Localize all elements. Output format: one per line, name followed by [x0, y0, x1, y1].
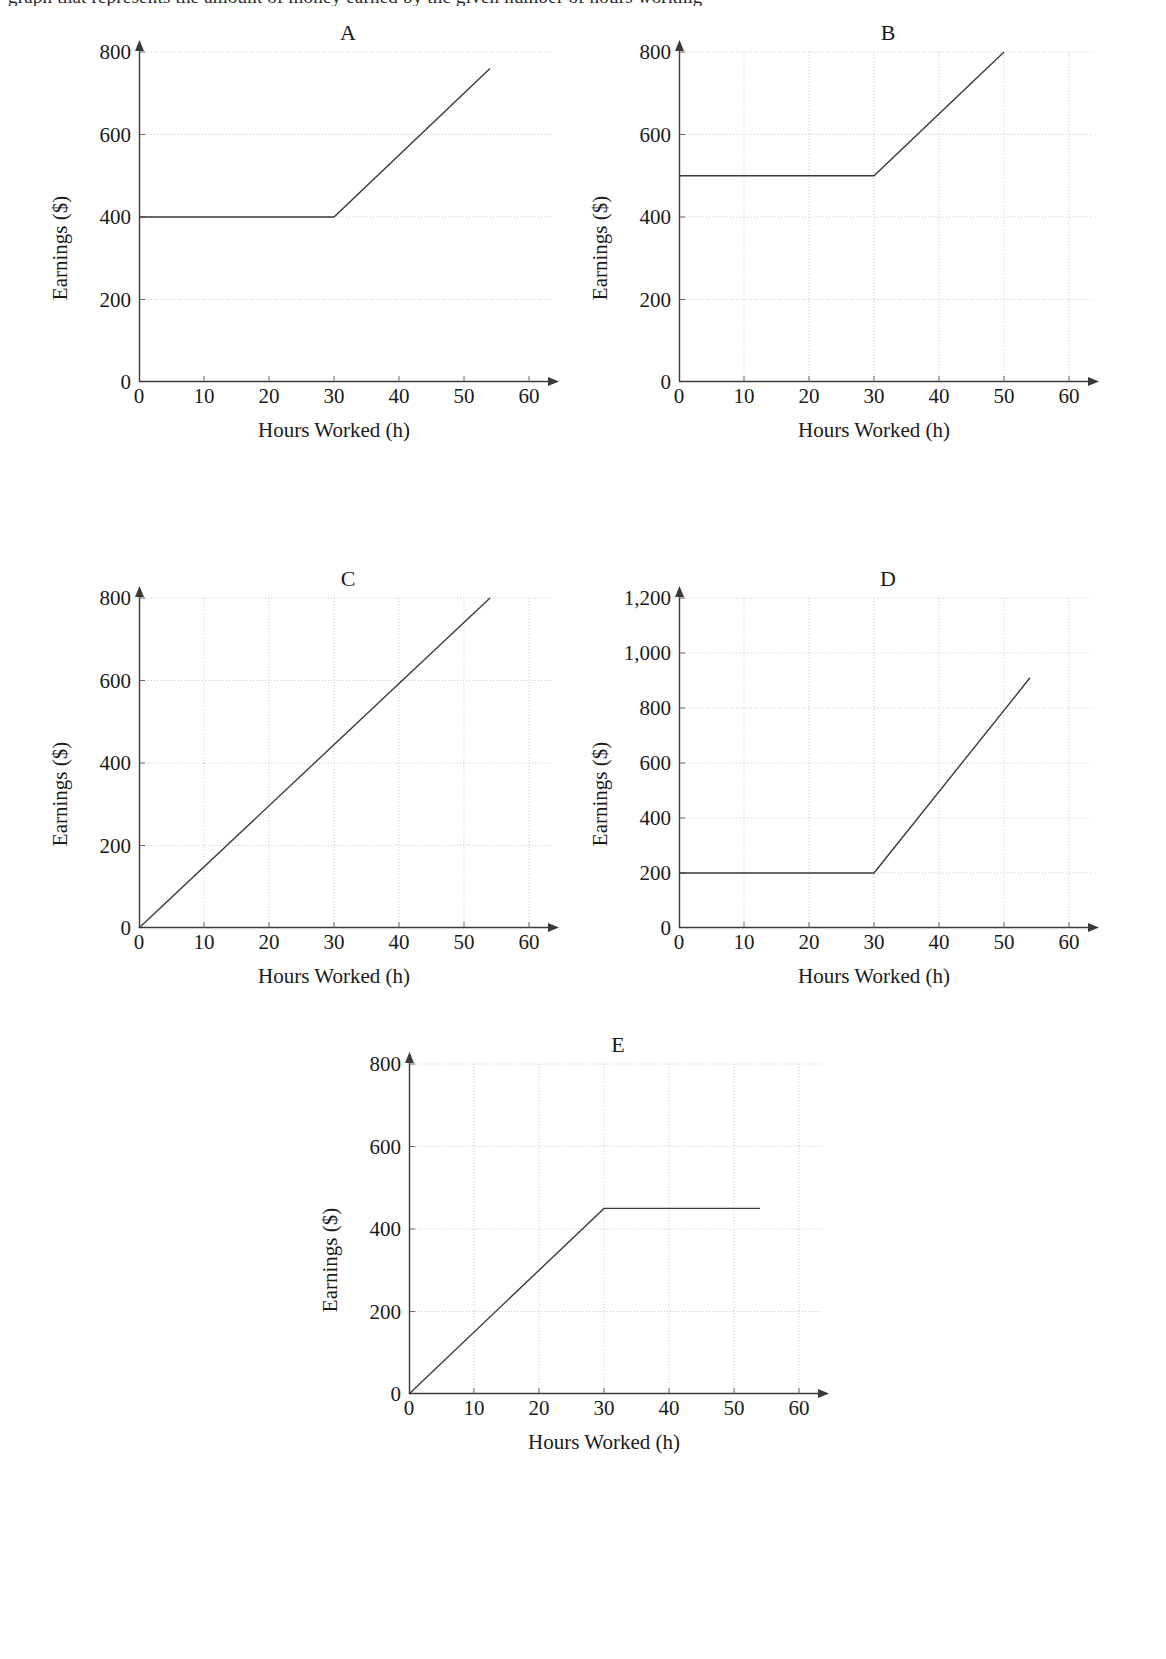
- x-tick-label: 60: [1059, 930, 1080, 955]
- x-tick-label: 0: [404, 1396, 415, 1421]
- x-tick-label: 20: [799, 384, 820, 409]
- x-tick-label: 50: [994, 384, 1015, 409]
- x-axis-label-d: Hours Worked (h): [679, 964, 1069, 989]
- gridlines-e: [409, 1064, 821, 1394]
- x-tick-label: 40: [659, 1396, 680, 1421]
- chart-cell-e: EEarnings ($)02004006008000102030405060H…: [313, 1034, 853, 1455]
- y-tick-label: 0: [121, 370, 132, 395]
- y-tick-label: 200: [370, 1299, 402, 1324]
- data-line-a: [139, 69, 490, 218]
- axes-a: [135, 40, 559, 386]
- x-tick-label: 40: [389, 384, 410, 409]
- chart-cell-d: DEarnings ($)02004006008001,0001,2000102…: [583, 568, 1123, 989]
- x-tick-label: 30: [864, 384, 885, 409]
- x-tick-label: 40: [389, 930, 410, 955]
- x-tick-labels-a: 0102030405060: [139, 382, 563, 412]
- cut-off-header-text-label: graph that represents the amount of mone…: [0, 0, 1166, 6]
- x-tick-label: 50: [994, 930, 1015, 955]
- x-tick-label: 40: [929, 930, 950, 955]
- y-axis-label-a: Earnings ($): [48, 195, 73, 299]
- y-tick-label: 600: [640, 751, 672, 776]
- y-tick-label: 1,000: [624, 641, 671, 666]
- x-axis-label-b: Hours Worked (h): [679, 418, 1069, 443]
- y-tick-label: 200: [100, 833, 132, 858]
- plot-column-e: 0102030405060Hours Worked (h): [409, 1064, 833, 1455]
- x-tick-label: 10: [734, 930, 755, 955]
- y-axis-label-wrap-b: Earnings ($): [583, 52, 617, 443]
- cut-off-header-text: graph that represents the amount of mone…: [0, 0, 1166, 6]
- plot-area-e: [409, 1064, 799, 1394]
- x-tick-label: 30: [864, 930, 885, 955]
- y-tick-label: 400: [370, 1217, 402, 1242]
- y-axis-label-wrap-a: Earnings ($): [43, 52, 77, 443]
- x-tick-label: 30: [324, 384, 345, 409]
- x-tick-label: 60: [1059, 384, 1080, 409]
- y-tick-label: 800: [640, 696, 672, 721]
- y-tick-label: 800: [640, 40, 672, 65]
- gridlines-b: [679, 52, 1091, 382]
- chart-body-c: Earnings ($)02004006008000102030405060Ho…: [43, 598, 583, 989]
- x-tick-label: 0: [674, 384, 685, 409]
- x-tick-label: 20: [259, 384, 280, 409]
- x-tick-label: 10: [464, 1396, 485, 1421]
- chart-body-e: Earnings ($)02004006008000102030405060Ho…: [313, 1064, 853, 1455]
- x-tick-label: 60: [519, 930, 540, 955]
- plot-column-a: 0102030405060Hours Worked (h): [139, 52, 563, 443]
- y-tick-label: 0: [661, 370, 672, 395]
- plot-area-d: [679, 598, 1069, 928]
- plot-svg-d: [679, 598, 1103, 944]
- chart-row-1: AEarnings ($)02004006008000102030405060H…: [0, 22, 1166, 443]
- chart-body-a: Earnings ($)02004006008000102030405060Ho…: [43, 52, 583, 443]
- data-line-b: [679, 52, 1004, 176]
- x-tick-label: 50: [454, 384, 475, 409]
- gridlines-c: [139, 598, 551, 928]
- y-tick-label: 400: [100, 751, 132, 776]
- plot-area-c: [139, 598, 529, 928]
- plot-svg-a: [139, 52, 563, 398]
- y-axis-label-wrap-e: Earnings ($): [313, 1064, 347, 1455]
- plot-svg-b: [679, 52, 1103, 398]
- y-tick-label: 800: [100, 586, 132, 611]
- y-tick-label: 600: [100, 668, 132, 693]
- gridlines-d: [679, 598, 1091, 928]
- plot-area-a: [139, 52, 529, 382]
- x-tick-label: 0: [674, 930, 685, 955]
- axes-d: [675, 586, 1099, 932]
- x-tick-label: 20: [529, 1396, 550, 1421]
- y-tick-label: 600: [370, 1134, 402, 1159]
- y-tick-label: 200: [640, 861, 672, 886]
- x-tick-label: 60: [519, 384, 540, 409]
- axes-c: [135, 586, 559, 932]
- x-tick-label: 10: [734, 384, 755, 409]
- x-tick-label: 30: [324, 930, 345, 955]
- data-line-e: [409, 1208, 760, 1394]
- y-tick-labels-c: 0200400600800: [77, 598, 139, 928]
- chart-body-d: Earnings ($)02004006008001,0001,20001020…: [583, 598, 1123, 989]
- y-axis-label-d: Earnings ($): [588, 741, 613, 845]
- x-tick-label: 40: [929, 384, 950, 409]
- plot-area-b: [679, 52, 1069, 382]
- y-tick-label: 0: [121, 916, 132, 941]
- y-axis-label-e: Earnings ($): [318, 1207, 343, 1311]
- x-tick-label: 50: [724, 1396, 745, 1421]
- chart-cell-b: BEarnings ($)02004006008000102030405060H…: [583, 22, 1123, 443]
- x-tick-labels-e: 0102030405060: [409, 1394, 833, 1424]
- x-tick-label: 30: [594, 1396, 615, 1421]
- x-tick-labels-d: 0102030405060: [679, 928, 1103, 958]
- y-tick-label: 800: [100, 40, 132, 65]
- y-axis-label-wrap-d: Earnings ($): [583, 598, 617, 989]
- y-tick-label: 800: [370, 1052, 402, 1077]
- y-tick-label: 200: [100, 287, 132, 312]
- y-axis-label-b: Earnings ($): [588, 195, 613, 299]
- y-tick-label: 600: [100, 122, 132, 147]
- y-axis-label-wrap-c: Earnings ($): [43, 598, 77, 989]
- y-tick-label: 200: [640, 287, 672, 312]
- data-line-c: [139, 598, 490, 928]
- y-tick-label: 0: [391, 1382, 402, 1407]
- y-tick-labels-b: 0200400600800: [617, 52, 679, 382]
- chart-body-b: Earnings ($)02004006008000102030405060Ho…: [583, 52, 1123, 443]
- x-tick-label: 50: [454, 930, 475, 955]
- axes-e: [405, 1052, 829, 1398]
- y-tick-label: 400: [640, 205, 672, 230]
- axes-b: [675, 40, 1099, 386]
